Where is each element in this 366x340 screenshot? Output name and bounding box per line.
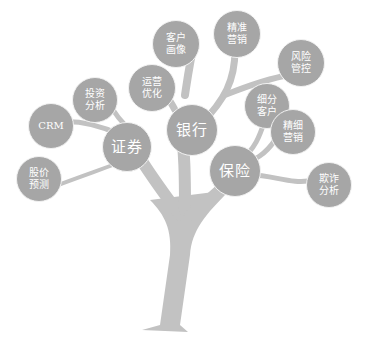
- node-fraud-analysis: 欺诈 分析: [306, 162, 352, 208]
- node-operations-optimization: 运营 优化: [128, 64, 176, 112]
- node-insurance: 保险: [209, 145, 261, 197]
- node-crm: CRM: [28, 103, 74, 149]
- node-bank: 银行: [166, 104, 218, 156]
- node-risk-control: 风险 管控: [277, 39, 325, 87]
- node-customer-profile: 客户 画像: [152, 20, 200, 68]
- node-securities: 证券: [102, 122, 152, 172]
- node-investment-analysis: 投资 分析: [72, 77, 118, 123]
- node-fine-marketing: 精细 营销: [270, 109, 316, 155]
- node-precision-marketing: 精准 营销: [213, 10, 261, 58]
- node-stock-prediction: 股价 预测: [16, 156, 62, 202]
